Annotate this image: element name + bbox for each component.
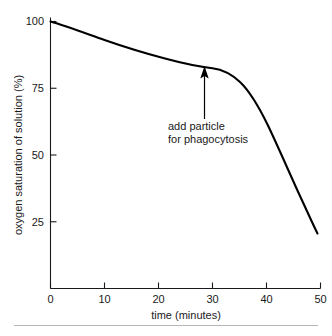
x-tick-label-20: 20 bbox=[152, 293, 164, 305]
y-tick-group bbox=[51, 22, 57, 222]
annotation-arrow bbox=[200, 66, 208, 119]
x-tick-label-30: 30 bbox=[206, 293, 218, 305]
x-tick-label-10: 10 bbox=[98, 293, 110, 305]
y-tick-label-75: 75 bbox=[32, 82, 44, 94]
x-tick-label-0: 0 bbox=[47, 293, 53, 305]
oxygen-saturation-line-chart: 100 75 50 25 0 10 20 30 40 50 time (minu… bbox=[0, 0, 332, 336]
x-axis-title: time (minutes) bbox=[151, 309, 221, 321]
y-tick-label-25: 25 bbox=[32, 216, 44, 228]
x-tick-label-40: 40 bbox=[260, 293, 272, 305]
annotation-line-2: for phagocytosis bbox=[168, 133, 249, 145]
y-tick-label-group: 100 75 50 25 bbox=[26, 15, 44, 228]
y-axis-title: oxygen saturation of solution (%) bbox=[12, 75, 24, 235]
annotation-line-1: add particle bbox=[168, 120, 225, 132]
y-tick-label-50: 50 bbox=[32, 149, 44, 161]
chart-figure: 100 75 50 25 0 10 20 30 40 50 time (minu… bbox=[0, 0, 332, 336]
x-tick-label-50: 50 bbox=[314, 293, 326, 305]
x-tick-label-group: 0 10 20 30 40 50 bbox=[47, 293, 326, 305]
x-tick-group bbox=[51, 283, 321, 289]
annotation-label: add particle for phagocytosis bbox=[168, 120, 249, 145]
y-tick-label-100: 100 bbox=[26, 15, 44, 27]
footer-divider bbox=[14, 325, 318, 326]
